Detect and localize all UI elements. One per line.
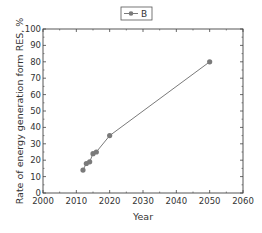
data-point-marker-icon — [107, 133, 112, 138]
x-axis: 2000201020202030204020502060 — [32, 29, 254, 206]
y-tick-label: 100 — [25, 24, 41, 34]
chart: B 0102030405060708090100 200020102020203… — [0, 0, 262, 233]
y-tick-label: 70 — [30, 73, 41, 83]
x-tick-label: 2060 — [232, 196, 254, 206]
series-b — [80, 59, 212, 172]
legend: B — [121, 7, 152, 20]
y-axis-title: Rate of energy generation form RES, % — [14, 18, 25, 205]
y-tick-label: 90 — [30, 40, 41, 50]
y-tick-label: 80 — [30, 57, 41, 67]
y-tick-label: 60 — [30, 90, 41, 100]
data-point-marker-icon — [87, 159, 92, 164]
x-tick-label: 2010 — [66, 196, 88, 206]
y-tick-label: 50 — [30, 106, 41, 116]
legend-marker-icon — [129, 11, 134, 16]
y-tick-label: 20 — [30, 155, 41, 165]
x-tick-label: 2020 — [99, 196, 121, 206]
data-point-marker-icon — [80, 167, 85, 172]
x-tick-label: 2050 — [199, 196, 221, 206]
legend-label: B — [141, 9, 147, 19]
y-tick-label: 10 — [30, 172, 41, 182]
x-axis-title: Year — [132, 211, 153, 222]
x-tick-label: 2040 — [166, 196, 188, 206]
data-point-marker-icon — [94, 149, 99, 154]
y-tick-label: 30 — [30, 139, 41, 149]
series-line — [83, 62, 210, 170]
x-tick-label: 2000 — [32, 196, 54, 206]
x-tick-label: 2030 — [132, 196, 154, 206]
y-tick-label: 40 — [30, 122, 41, 132]
data-point-marker-icon — [207, 59, 212, 64]
y-axis: 0102030405060708090100 — [25, 24, 243, 198]
